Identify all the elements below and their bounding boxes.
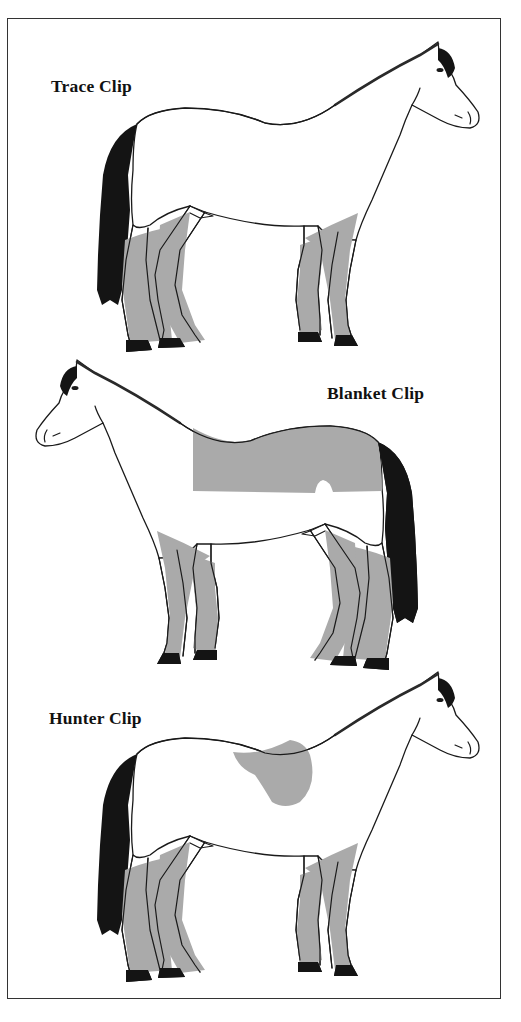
label-trace-clip: Trace Clip — [51, 76, 132, 97]
horse-clip-illustration — [0, 0, 521, 1022]
label-hunter-clip: Hunter Clip — [49, 708, 142, 729]
horse-blanket-clip — [36, 360, 418, 670]
horse-hunter-clip — [97, 672, 479, 982]
label-blanket-clip: Blanket Clip — [327, 383, 424, 404]
horse-trace-clip — [97, 42, 479, 352]
